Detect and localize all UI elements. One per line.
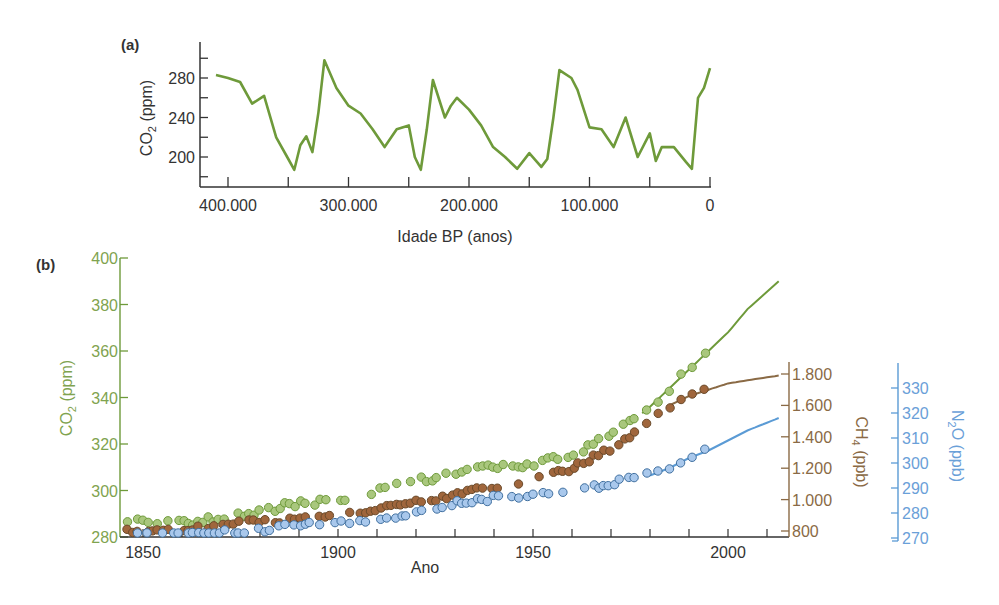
co2-data-point xyxy=(665,387,673,395)
co2-data-point xyxy=(432,473,440,481)
co2-data-point xyxy=(442,469,450,477)
n2o-tick-label: 270 xyxy=(902,530,929,547)
panel-a-label: (a) xyxy=(121,36,139,53)
n2o-data-point xyxy=(401,512,409,520)
n2o-tick-label: 300 xyxy=(902,455,929,472)
svg-text:CH4 (ppb): CH4 (ppb) xyxy=(850,416,870,487)
ch4-data-point xyxy=(606,447,614,455)
panel-b-xtick-label: 1850 xyxy=(125,544,161,561)
n2o-data-point xyxy=(281,520,289,528)
co2-data-point xyxy=(630,415,638,423)
ch4-tick-label: 1.800 xyxy=(792,366,832,383)
co2-line xyxy=(642,281,779,413)
co2-data-point xyxy=(688,363,696,371)
ch4-tick-label: 1.600 xyxy=(792,397,832,414)
chart-canvas: (a) CO2 (ppm) 280240200400.000300.000200… xyxy=(0,0,999,605)
ch4-data-point xyxy=(235,517,243,525)
panel-a-ytick-label: 280 xyxy=(168,70,195,87)
ch4-data-point xyxy=(677,395,685,403)
panel-b-data xyxy=(123,281,779,537)
panel-a-xtick-label: 200.000 xyxy=(440,197,498,214)
co2-data-point xyxy=(701,349,709,357)
co2-data-point xyxy=(609,428,617,436)
ch4-tick-label: 1.000 xyxy=(792,492,832,509)
co2-data-point xyxy=(322,496,330,504)
n2o-data-point xyxy=(676,459,684,467)
co2-tick-label: 280 xyxy=(91,529,118,546)
co2-data-point xyxy=(594,434,602,442)
panel-b-ch4-ylabel: CH4 (ppb) xyxy=(850,416,870,487)
svg-text:N2O (ppb): N2O (ppb) xyxy=(946,410,966,482)
n2o-data-point xyxy=(515,494,523,502)
ch4-data-point xyxy=(666,404,674,412)
n2o-data-point xyxy=(240,529,248,537)
ch4-data-point xyxy=(535,473,543,481)
panel-a-xtick-label: 300.000 xyxy=(320,197,378,214)
n2o-data-point xyxy=(305,518,313,526)
ch4-data-point xyxy=(514,480,522,488)
n2o-data-point xyxy=(361,518,369,526)
ch4-data-point xyxy=(700,385,708,393)
n2o-data-point xyxy=(158,529,166,537)
panel-b-xtick-label: 1900 xyxy=(320,544,356,561)
panel-b-label: (b) xyxy=(36,256,55,273)
n2o-data-point xyxy=(701,445,709,453)
ch4-line xyxy=(670,376,779,406)
svg-text:CO2 (ppm): CO2 (ppm) xyxy=(138,80,158,156)
co2-data-point xyxy=(301,499,309,507)
co2-data-point xyxy=(463,465,471,473)
n2o-tick-label: 310 xyxy=(902,430,929,447)
panel-b-co2-ylabel: CO2 (ppm) xyxy=(58,360,78,436)
panel-a-ytick-label: 200 xyxy=(168,149,195,166)
ch4-data-point xyxy=(630,428,638,436)
n2o-data-point xyxy=(438,503,446,511)
panel-a-axes: 280240200400.000300.000200.000100.0000 xyxy=(168,42,714,214)
ch4-data-point xyxy=(478,484,486,492)
panel-a-co2-line xyxy=(216,60,710,170)
n2o-data-point xyxy=(265,526,273,534)
n2o-data-point xyxy=(643,469,651,477)
n2o-data-point xyxy=(654,467,662,475)
n2o-data-point xyxy=(133,529,141,537)
co2-data-point xyxy=(530,462,538,470)
n2o-data-point xyxy=(665,465,673,473)
co2-data-point xyxy=(569,451,577,459)
n2o-data-point xyxy=(580,484,588,492)
co2-tick-label: 340 xyxy=(91,390,118,407)
n2o-data-point xyxy=(345,519,353,527)
n2o-data-point xyxy=(615,475,623,483)
co2-tick-label: 360 xyxy=(91,343,118,360)
n2o-data-point xyxy=(688,453,696,461)
n2o-data-point xyxy=(559,488,567,496)
panel-b-axes: 40038036034032030028018501900195020001.8… xyxy=(91,250,929,561)
co2-data-point xyxy=(406,477,414,485)
ch4-tick-label: 1.200 xyxy=(792,460,832,477)
co2-tick-label: 380 xyxy=(91,297,118,314)
n2o-data-point xyxy=(382,514,390,522)
co2-tick-label: 320 xyxy=(91,436,118,453)
n2o-tick-label: 330 xyxy=(902,380,929,397)
panel-a-xlabel: Idade BP (anos) xyxy=(397,228,512,245)
co2-data-point xyxy=(255,506,263,514)
ch4-data-point xyxy=(688,390,696,398)
panel-b-xtick-label: 1950 xyxy=(515,544,551,561)
ch4-data-point xyxy=(417,498,425,506)
n2o-data-point xyxy=(630,473,638,481)
co2-data-point xyxy=(144,518,152,526)
n2o-data-point xyxy=(529,490,537,498)
panel-a-xtick-label: 100.000 xyxy=(561,197,619,214)
co2-tick-label: 300 xyxy=(91,483,118,500)
ch4-tick-label: 1.400 xyxy=(792,429,832,446)
n2o-tick-label: 320 xyxy=(902,405,929,422)
panel-a-xtick-label: 400.000 xyxy=(199,197,257,214)
n2o-data-point xyxy=(315,521,323,529)
svg-text:CO2 (ppm): CO2 (ppm) xyxy=(58,360,78,436)
co2-data-point xyxy=(341,496,349,504)
ch4-data-point xyxy=(642,419,650,427)
n2o-data-point xyxy=(417,506,425,514)
panel-a: (a) CO2 (ppm) 280240200400.000300.000200… xyxy=(121,36,715,245)
panel-b-xlabel: Ano xyxy=(411,559,440,576)
co2-data-point xyxy=(393,479,401,487)
n2o-data-point xyxy=(494,492,502,500)
ch4-data-point xyxy=(325,511,333,519)
